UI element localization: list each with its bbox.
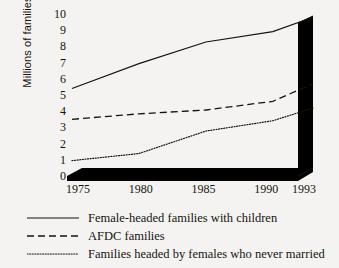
solid-line-sample — [27, 212, 79, 224]
floor-shape — [67, 168, 313, 176]
x-tick-label: 1985 — [192, 183, 216, 196]
legend-item[interactable]: AFDC families — [27, 227, 327, 245]
x-tick-label: 1990 — [254, 183, 278, 196]
legend-label: Families headed by females who never mar… — [88, 248, 325, 261]
chart-legend: Female-headed families with childrenAFDC… — [27, 209, 327, 263]
series-line — [72, 17, 313, 88]
chart-container: Millions of families 109876543210 197519… — [0, 0, 339, 268]
x-tick-label: 1993 — [292, 183, 316, 196]
x-tick-label: 1975 — [66, 183, 90, 196]
legend-label: AFDC families — [88, 230, 165, 243]
x-axis-tick-labels: 19751980198519901993 — [0, 183, 339, 201]
legend-item[interactable]: Female-headed families with children — [27, 209, 327, 227]
series-layer — [72, 17, 313, 160]
plot-area — [0, 0, 339, 205]
dotted-line-sample — [27, 248, 79, 260]
x-tick-label: 1980 — [129, 183, 153, 196]
legend-item[interactable]: Families headed by females who never mar… — [27, 245, 327, 263]
right-wall-shape — [298, 16, 313, 176]
legend-label: Female-headed families with children — [88, 212, 277, 225]
dashed-line-sample — [27, 230, 79, 242]
series-line — [72, 84, 313, 120]
